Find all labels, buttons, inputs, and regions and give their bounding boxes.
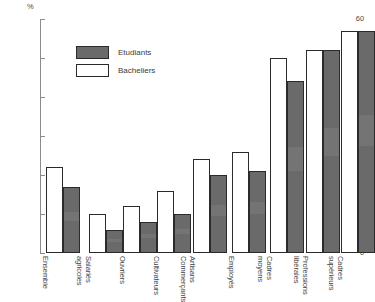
category-label: Cadressupérieurs — [327, 256, 345, 291]
bar-bacheliers — [46, 167, 63, 253]
bar-etudiants — [63, 187, 80, 253]
bar-bacheliers — [157, 191, 174, 253]
bar-bacheliers — [123, 206, 140, 253]
legend-label: Etudiants — [118, 48, 151, 57]
category-label: Cadresmoyens — [256, 256, 274, 282]
bar-bacheliers — [306, 50, 323, 253]
bar-bacheliers — [193, 159, 210, 253]
bar-group — [306, 19, 340, 253]
category-label: Cultivateurs — [152, 256, 161, 295]
bar-group — [232, 19, 266, 253]
bar-bacheliers — [89, 214, 106, 253]
legend-item: Etudiants — [76, 44, 191, 60]
bar-etudiants — [106, 230, 123, 253]
bar-etudiants — [287, 81, 304, 253]
legend-swatch-icon — [76, 46, 109, 59]
category-label: Employés — [227, 256, 236, 289]
bar-etudiants — [323, 50, 340, 253]
bar-group — [270, 19, 304, 253]
legend-item: Bacheliers — [76, 62, 191, 78]
bar-etudiants — [174, 214, 191, 253]
category-label: Professionslibérales — [292, 256, 310, 295]
category-label: Ouvriers — [118, 256, 127, 284]
bar-etudiants — [358, 31, 375, 253]
bar-group — [341, 19, 375, 253]
chart-legend: EtudiantsBacheliers — [76, 44, 191, 80]
bar-etudiants — [140, 222, 157, 253]
category-label: ArtisansCommerçants — [179, 256, 197, 302]
bar-etudiants — [210, 175, 227, 253]
bar-etudiants — [249, 171, 266, 253]
bar-bacheliers — [270, 58, 287, 253]
legend-label: Bacheliers — [118, 66, 155, 75]
y-axis-unit-label: % — [27, 3, 34, 11]
bar-group — [193, 19, 227, 253]
bar-bacheliers — [232, 152, 249, 253]
bar-group — [46, 19, 80, 253]
category-label: Salariésagricoles — [75, 256, 93, 286]
legend-swatch-icon — [76, 64, 109, 77]
bar-bacheliers — [341, 31, 358, 253]
y-axis-tick — [40, 253, 45, 254]
category-label: Ensemble — [41, 256, 50, 289]
